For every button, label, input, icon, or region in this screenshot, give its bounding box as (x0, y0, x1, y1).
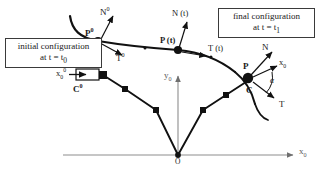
polyline-node-square (122, 86, 128, 92)
node-pt-marker (174, 46, 182, 54)
label-n-of-t: N (t) (172, 9, 188, 18)
label-c-final: C (246, 86, 253, 95)
callout-initial-line2: at t = t0 (9, 52, 98, 66)
polyline-right-branch (178, 82, 246, 155)
label-origin: O (175, 158, 180, 166)
curve-time-t-branch (178, 50, 268, 120)
polyline-node-square (200, 107, 206, 113)
label-x0-initial-vector: x00 (56, 68, 66, 80)
label-t0: T0 (116, 52, 125, 63)
frenet-frame-final (251, 52, 277, 98)
chord-polyline (99, 71, 246, 155)
label-axis-y0: y0 (164, 71, 172, 82)
curve-final-tail-end (255, 104, 268, 120)
label-x0-final: x0 (279, 58, 286, 69)
vector-n-final (251, 52, 272, 75)
vector-c0-group (69, 69, 99, 80)
label-c0: C0 (73, 83, 83, 94)
label-n-final: N (262, 43, 269, 52)
polyline-left-branch (103, 75, 178, 155)
callout-final-line1: final configuration (222, 11, 311, 22)
callout-initial-configuration: initial configuration at t = t0 (5, 38, 102, 68)
callout-final-line2: at t = t1 (222, 22, 311, 36)
polyline-node-square (99, 71, 107, 79)
figure-canvas: initial configuration at t = t0 final co… (0, 0, 321, 171)
frenet-frame-initial (100, 16, 122, 55)
polyline-node-square (223, 92, 229, 98)
label-angle-alpha: α (270, 77, 274, 85)
reference-axes (63, 76, 293, 158)
label-p0: P0 (85, 27, 94, 38)
label-axis-x0: x0 (299, 147, 307, 158)
label-n0: N0 (100, 6, 110, 17)
label-p-final: P (243, 62, 249, 71)
material-point-dot (210, 56, 213, 59)
vector-n-t (179, 22, 187, 48)
label-t-final: T (279, 100, 285, 109)
label-t-of-t: T (t) (208, 44, 223, 53)
material-point-dot (144, 47, 147, 50)
label-p-of-t: P (t) (160, 36, 175, 45)
polyline-node-square (153, 107, 159, 113)
callout-final-configuration: final configuration at t = t1 (218, 8, 315, 38)
callout-initial-line1: initial configuration (9, 41, 98, 52)
